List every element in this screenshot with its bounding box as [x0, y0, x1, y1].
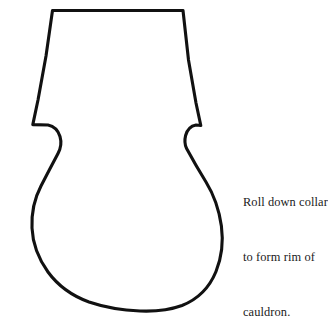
- annotation-line-1: Roll down collar: [243, 193, 328, 211]
- cauldron-outline-path: [32, 11, 222, 312]
- annotation-line-3: cauldron.: [243, 303, 328, 321]
- annotation-text-block: Roll down collar to form rim of cauldron…: [243, 157, 328, 322]
- annotation-line-2: to form rim of: [243, 248, 328, 266]
- pattern-figure-page: Roll down collar to form rim of cauldron…: [0, 0, 328, 322]
